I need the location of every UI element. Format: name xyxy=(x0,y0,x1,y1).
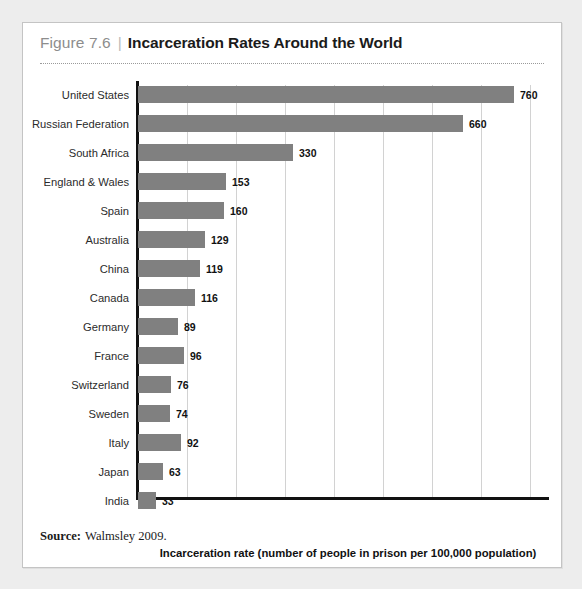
bar-category-label: Russian Federation xyxy=(32,118,129,130)
bar-rows: United States760Russian Federation660Sou… xyxy=(138,85,549,497)
figure-container: Figure 7.6 | Incarceration Rates Around … xyxy=(22,22,562,568)
bar-value-label: 33 xyxy=(162,495,174,507)
bar-value-label: 119 xyxy=(206,263,223,275)
bar xyxy=(138,492,156,509)
bar-value-label: 160 xyxy=(230,205,248,217)
bar-chart: United States760Russian Federation660Sou… xyxy=(23,75,561,515)
bar-value-label: 89 xyxy=(184,321,196,333)
bar xyxy=(138,463,163,480)
bar xyxy=(138,347,184,364)
bar-category-label: United States xyxy=(62,89,129,101)
bar-category-label: France xyxy=(94,350,129,362)
bar-category-label: Spain xyxy=(100,205,129,217)
bar-category-label: Switzerland xyxy=(71,379,129,391)
figure-number: Figure 7.6 xyxy=(40,34,111,52)
bar xyxy=(138,376,171,393)
bar-value-label: 660 xyxy=(469,118,487,130)
bar-category-label: Japan xyxy=(99,466,129,478)
figure-title: Incarceration Rates Around the World xyxy=(128,34,403,52)
bar-category-label: China xyxy=(100,263,129,275)
page-background: Figure 7.6 | Incarceration Rates Around … xyxy=(0,0,582,589)
figure-title-separator: | xyxy=(118,34,122,52)
bar-value-label: 96 xyxy=(190,350,202,362)
bar xyxy=(138,434,181,451)
header-divider xyxy=(40,63,544,64)
bar-value-label: 116 xyxy=(201,292,218,304)
source-text: Walmsley 2009. xyxy=(85,529,167,543)
bar-value-label: 92 xyxy=(187,437,199,449)
bar-category-label: Germany xyxy=(83,321,129,333)
figure-header: Figure 7.6 | Incarceration Rates Around … xyxy=(40,34,540,58)
bar xyxy=(138,202,224,219)
bar xyxy=(138,86,514,103)
x-axis-title: Incarceration rate (number of people in … xyxy=(138,547,558,559)
bar-category-label: Sweden xyxy=(89,408,129,420)
bar xyxy=(138,318,178,335)
source-label: Source: xyxy=(40,529,81,543)
bar xyxy=(138,144,293,161)
bar xyxy=(138,405,170,422)
bar-value-label: 74 xyxy=(176,408,188,420)
bar xyxy=(138,260,200,277)
bar-value-label: 129 xyxy=(211,234,229,246)
bar-category-label: England & Wales xyxy=(44,176,129,188)
bar-category-label: India xyxy=(105,495,129,507)
bar xyxy=(138,173,226,190)
bar-value-label: 153 xyxy=(232,176,250,188)
bar-value-label: 76 xyxy=(177,379,189,391)
source-note: Source:Walmsley 2009. xyxy=(40,529,167,544)
bar-category-label: Italy xyxy=(108,437,129,449)
x-axis-line xyxy=(136,497,549,500)
bar-value-label: 63 xyxy=(169,466,181,478)
bar xyxy=(138,231,205,248)
bar-category-label: Australia xyxy=(85,234,129,246)
bar-category-label: Canada xyxy=(90,292,129,304)
bar xyxy=(138,115,463,132)
bar xyxy=(138,289,195,306)
bar-category-label: South Africa xyxy=(69,147,129,159)
bar-value-label: 760 xyxy=(520,89,538,101)
plot-area: United States760Russian Federation660Sou… xyxy=(138,85,549,497)
bar-value-label: 330 xyxy=(299,147,317,159)
